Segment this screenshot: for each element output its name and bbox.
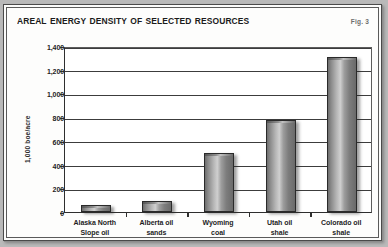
bar-top-edge: [205, 154, 233, 156]
x-axis-tick-mark: [126, 213, 127, 217]
y-axis-tick-label: 400: [30, 162, 64, 169]
x-axis-label-line1: Wyoming: [202, 219, 233, 226]
title-row: Areal energy density of selected resourc…: [7, 8, 378, 34]
bar-slot: [142, 48, 172, 212]
figure-number-label: Fig. 3: [351, 18, 369, 25]
plot-area: [64, 47, 372, 213]
bar-slot: [81, 48, 111, 212]
bar-slot: [204, 48, 234, 212]
x-axis-label: Utah oilshale: [249, 218, 311, 237]
bar: [204, 153, 234, 212]
x-axis-label-line2: shale: [249, 228, 311, 238]
bar-top-edge: [143, 202, 171, 204]
x-axis-label-line2: Slope oil: [64, 228, 126, 238]
bar-slot: [266, 48, 296, 212]
bar-slot: [327, 48, 357, 212]
x-axis-label: Alaska NorthSlope oil: [64, 218, 126, 237]
x-axis-label: Colorado oilshale: [310, 218, 372, 237]
y-axis-tick-label: 600: [30, 138, 64, 145]
y-axis-tick: 0: [26, 213, 64, 214]
y-axis-tick: 600: [26, 142, 64, 143]
y-axis-tick: 1,200: [26, 71, 64, 72]
y-axis-tick-label: 1,200: [30, 67, 64, 74]
y-axis-tick: 1,000: [26, 94, 64, 95]
bar: [142, 201, 172, 212]
x-axis-tick-mark: [249, 213, 250, 217]
figure-inner-border: Areal energy density of selected resourc…: [6, 7, 379, 238]
x-axis-label-line1: Colorado oil: [321, 219, 361, 226]
x-axis-label-line2: sands: [126, 228, 188, 238]
x-axis-label-line2: coal: [187, 228, 249, 238]
x-axis-label-line1: Alaska North: [74, 219, 117, 226]
y-axis-tick: 800: [26, 118, 64, 119]
bar-top-edge: [328, 58, 356, 60]
bar-top-edge: [267, 121, 295, 123]
y-axis-tick-label: 1,000: [30, 91, 64, 98]
x-axis-tick-mark: [310, 213, 311, 217]
x-axis-tick-mark: [187, 213, 188, 217]
bar: [81, 205, 111, 212]
plot-wrapper: 1,000 boe/acre 02004006008001,0001,2001,…: [7, 34, 378, 237]
x-axis-label-line1: Alberta oil: [140, 219, 174, 226]
x-axis-label-line2: shale: [310, 228, 372, 238]
y-axis-tick-label: 1,400: [30, 44, 64, 51]
y-axis-tick-label: 800: [30, 115, 64, 122]
x-axis-label: Wyomingcoal: [187, 218, 249, 237]
x-axis-labels: Alaska NorthSlope oilAlberta oilsandsWyo…: [47, 218, 383, 244]
x-axis-label-line1: Utah oil: [267, 219, 292, 226]
y-axis-tick-label: 0: [30, 210, 64, 217]
bar: [327, 57, 357, 212]
y-axis-tick: 400: [26, 166, 64, 167]
x-axis-label: Alberta oilsands: [126, 218, 188, 237]
bar-series: [65, 48, 371, 212]
figure-frame: Areal energy density of selected resourc…: [3, 4, 382, 241]
page-title: Areal energy density of selected resourc…: [17, 13, 249, 27]
y-axis-tick-label: 200: [30, 186, 64, 193]
y-axis-tick: 200: [26, 189, 64, 190]
bar: [266, 120, 296, 212]
y-axis-tick: 1,400: [26, 47, 64, 48]
bar-top-edge: [82, 206, 110, 208]
